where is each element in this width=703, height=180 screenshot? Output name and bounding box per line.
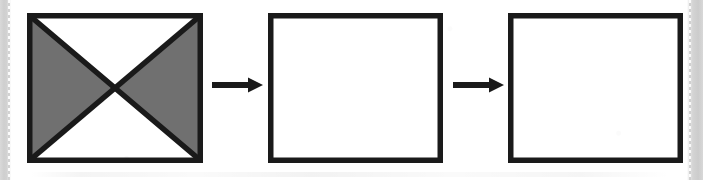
- arrow-head: [489, 78, 504, 93]
- panel-empty-square-2[interactable]: [508, 13, 683, 163]
- arrow-shaft: [212, 82, 250, 88]
- square-background: [511, 16, 681, 161]
- arrow-head: [248, 78, 263, 93]
- arrow-panel2-to-panel3: [451, 72, 505, 98]
- empty-square-1-svg: [268, 13, 443, 163]
- shaded-x-square-svg: [27, 13, 203, 163]
- sequence-diagram: [0, 0, 703, 180]
- right-arrow-icon: [210, 72, 264, 98]
- right-arrow-icon: [451, 72, 505, 98]
- square-background: [271, 16, 441, 161]
- empty-square-2-svg: [508, 13, 683, 163]
- panel-shaded-x-square[interactable]: [27, 13, 203, 163]
- arrow-panel1-to-panel2: [210, 72, 264, 98]
- arrow-shaft: [453, 82, 491, 88]
- scanned-figure-page: [0, 0, 703, 180]
- panel-empty-square-1[interactable]: [268, 13, 443, 163]
